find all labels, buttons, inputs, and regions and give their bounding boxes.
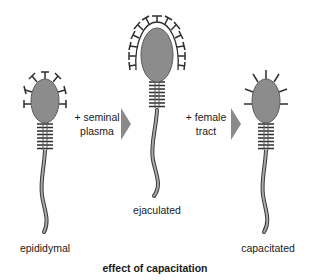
sperm-epididymal bbox=[24, 72, 66, 232]
transition-label-1: + seminal plasma bbox=[72, 110, 122, 138]
head bbox=[141, 28, 173, 82]
stage-label-epididymal: epididymal bbox=[5, 242, 85, 255]
transition-1-line1: + seminal bbox=[72, 110, 122, 124]
transition-2-line2: tract bbox=[183, 124, 229, 138]
capacitation-diagram: + seminal plasma + female tract ejaculat… bbox=[0, 0, 310, 280]
head bbox=[31, 79, 59, 123]
stage-label-capacitated: capacitated bbox=[228, 242, 308, 255]
figure-title: effect of capacitation bbox=[80, 262, 230, 274]
transition-2-line1: + female bbox=[183, 110, 229, 124]
arrow-right-icon-1 bbox=[121, 108, 131, 140]
transition-1-line2: plasma bbox=[72, 124, 122, 138]
stage-label-ejaculated: ejaculated bbox=[125, 204, 189, 217]
diagram-canvas bbox=[0, 0, 310, 280]
head bbox=[252, 79, 280, 123]
sperm-ejaculated bbox=[129, 16, 185, 196]
arrow-right-icon-2 bbox=[231, 108, 241, 140]
transition-label-2: + female tract bbox=[183, 110, 229, 138]
sperm-capacitated bbox=[244, 70, 288, 232]
midpiece bbox=[149, 80, 165, 108]
midpiece bbox=[258, 122, 274, 150]
midpiece bbox=[37, 122, 53, 150]
